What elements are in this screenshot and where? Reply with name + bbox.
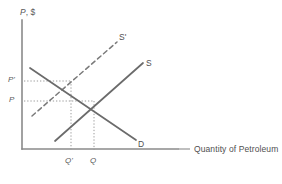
chart-canvas bbox=[0, 0, 282, 184]
supply-curve-label: S bbox=[146, 59, 152, 68]
x-tick-quantity-low: Q' bbox=[65, 157, 73, 165]
y-tick-price-high: P' bbox=[8, 76, 15, 84]
demand-curve-label: D bbox=[138, 140, 144, 149]
x-tick-quantity-high: Q bbox=[90, 157, 96, 165]
supply-demand-chart: P, $ P' P Q' Q Quantity of Petroleum S' … bbox=[0, 0, 282, 184]
supply-curve bbox=[55, 63, 143, 141]
y-tick-price-low: P bbox=[9, 96, 14, 104]
shifted-supply-curve-label: S' bbox=[119, 33, 126, 42]
x-axis-title: Quantity of Petroleum bbox=[194, 145, 278, 154]
y-axis-unit: , $ bbox=[26, 7, 35, 17]
y-axis-title: P, $ bbox=[20, 8, 35, 17]
